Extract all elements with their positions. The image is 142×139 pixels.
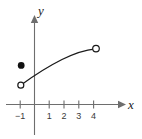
points-group bbox=[18, 45, 100, 88]
curve-group bbox=[21, 49, 96, 85]
x-tick-label-1: 1 bbox=[47, 111, 52, 121]
axes-group: −1 1 2 3 4 x y bbox=[6, 3, 134, 135]
x-tick-label-3: 3 bbox=[76, 111, 81, 121]
x-tick-label-4: 4 bbox=[91, 111, 96, 121]
graph-figure: −1 1 2 3 4 x y bbox=[0, 0, 142, 139]
coordinate-plane-svg: −1 1 2 3 4 x y bbox=[0, 0, 142, 139]
x-axis-label: x bbox=[127, 97, 134, 112]
filled-dot-isolated-value bbox=[18, 62, 25, 69]
x-axis-arrowhead bbox=[118, 101, 126, 108]
open-circle-left-endpoint bbox=[18, 82, 24, 88]
open-circle-right-endpoint bbox=[93, 45, 100, 52]
x-tick-label-2: 2 bbox=[61, 111, 66, 121]
function-curve bbox=[21, 49, 96, 85]
x-tick-label-neg1: −1 bbox=[15, 111, 25, 121]
y-axis-label: y bbox=[36, 3, 44, 18]
